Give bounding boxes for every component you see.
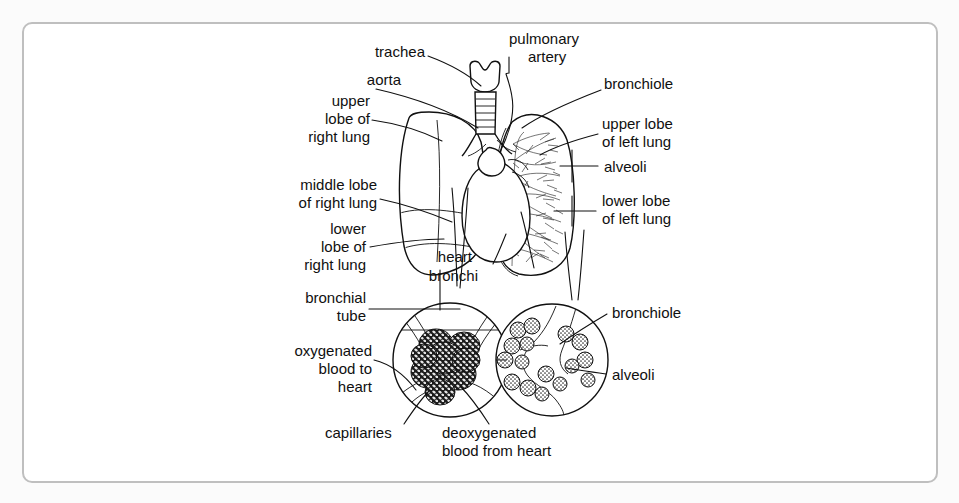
diagram-page: trachea aorta upper lobe of right lung m… <box>0 0 959 503</box>
label-upper-lobe-right-line3: right lung <box>308 128 370 145</box>
respiratory-system-illustration: trachea aorta upper lobe of right lung m… <box>0 0 959 503</box>
label-bronchi: bronchi <box>429 267 478 284</box>
label-bronchial-tube-line1: bronchial <box>305 289 366 306</box>
label-trachea: trachea <box>375 43 426 60</box>
label-bronchial-tube-line2: tube <box>337 307 366 324</box>
inset-alveoli <box>496 304 608 418</box>
label-heart: heart <box>438 248 473 265</box>
label-capillaries: capillaries <box>325 424 392 441</box>
label-lower-lobe-right-line2: lobe of <box>321 238 367 255</box>
label-lower-lobe-left-line2: of left lung <box>602 210 671 227</box>
leader-aorta <box>376 89 478 128</box>
label-upper-lobe-right-line1: upper <box>332 92 370 109</box>
label-lower-lobe-right-line3: right lung <box>304 256 366 273</box>
label-upper-lobe-left-line2: of left lung <box>602 133 671 150</box>
label-middle-lobe-right-line1: middle lobe <box>300 176 377 193</box>
heart <box>462 140 530 262</box>
label-deoxygenated-line2: blood from heart <box>442 442 552 459</box>
label-upper-lobe-right-line2: lobe of <box>325 110 371 127</box>
pointer-left-lobe-b <box>578 230 584 300</box>
leader-bronchiole-top <box>522 90 601 128</box>
label-aorta: aorta <box>367 71 402 88</box>
leader-lower-right <box>370 239 444 247</box>
label-lower-lobe-right-line1: lower <box>330 220 366 237</box>
label-middle-lobe-right-line2: of right lung <box>299 194 377 211</box>
label-oxygenated-line2: blood to <box>319 360 372 377</box>
label-lower-lobe-left-line1: lower lobe <box>602 192 670 209</box>
label-alveoli-top: alveoli <box>604 158 647 175</box>
label-deoxygenated-line1: deoxygenated <box>442 424 536 441</box>
label-bronchiole-inset: bronchiole <box>612 304 681 321</box>
label-pulmonary-artery-line1: pulmonary <box>509 30 580 47</box>
label-oxygenated-line1: oxygenated <box>294 342 372 359</box>
label-bronchiole-top: bronchiole <box>604 75 673 92</box>
inset-capillaries <box>393 303 507 417</box>
leader-upper-left-lung <box>540 134 598 155</box>
label-oxygenated-line3: heart <box>338 378 373 395</box>
label-pulmonary-artery-line2: artery <box>528 48 567 65</box>
label-alveoli-inset: alveoli <box>612 366 655 383</box>
label-upper-lobe-left-line1: upper lobe <box>602 115 673 132</box>
